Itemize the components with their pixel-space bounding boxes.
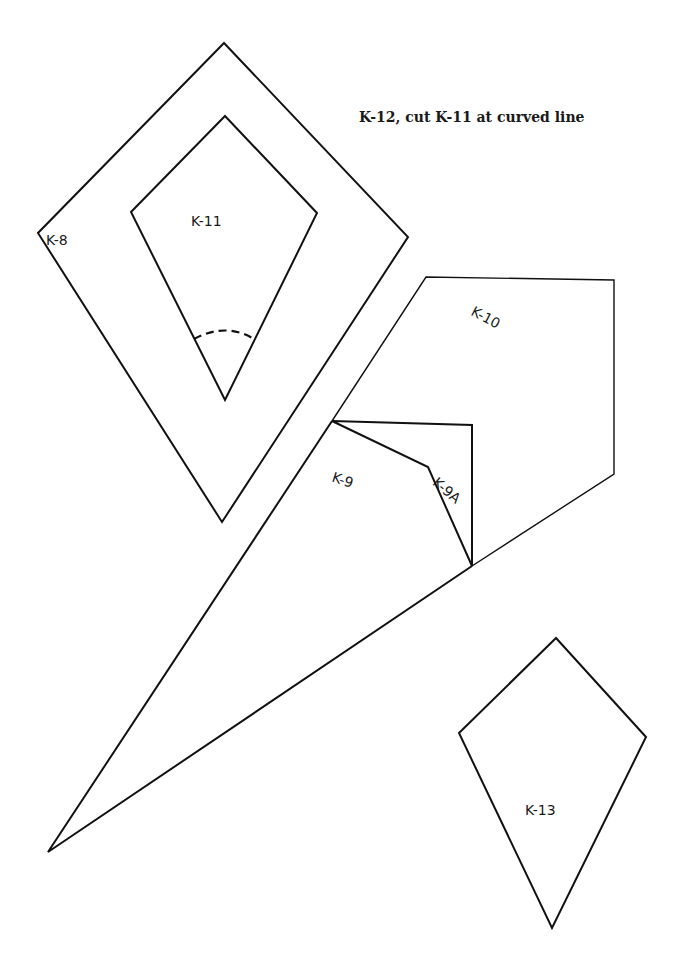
piece-k13-outline: [459, 638, 646, 928]
label-k11: K-11: [191, 213, 222, 229]
label-k8: K-8: [46, 232, 68, 248]
piece-k9-outline: [48, 421, 472, 852]
piece-k8-outline: [38, 43, 408, 522]
instruction-title: K-12, cut K-11 at curved line: [359, 109, 584, 125]
label-k13: K-13: [525, 802, 556, 818]
piece-k11-outline: [131, 116, 317, 400]
cut-line-curve: [194, 331, 254, 340]
pattern-sheet: K-12, cut K-11 at curved line K-8 K-11 K…: [0, 0, 690, 964]
